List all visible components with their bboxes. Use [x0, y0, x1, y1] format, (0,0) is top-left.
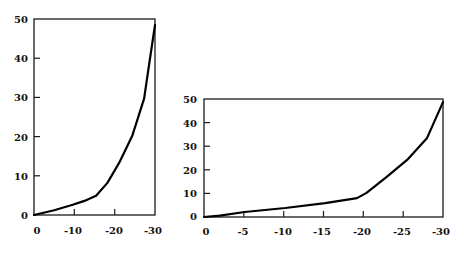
right-y-label: 40	[183, 118, 197, 129]
left-y-label: 40	[14, 53, 28, 64]
right-x-ticks	[244, 211, 403, 217]
right-y-label: 20	[183, 165, 197, 176]
left-y-tick-labels: 0 10 20 30 40 50	[14, 14, 28, 221]
left-y-label: 10	[14, 171, 28, 182]
right-y-ticks	[204, 123, 210, 194]
right-x-label: -5	[237, 226, 248, 237]
left-y-label: 0	[21, 210, 28, 221]
right-x-label: -30	[432, 226, 450, 237]
right-x-label: -20	[353, 226, 371, 237]
left-x-ticks	[74, 209, 114, 215]
right-x-label: -10	[274, 226, 292, 237]
left-y-ticks	[34, 58, 40, 176]
right-y-tick-labels: 0 10 20 30 40 50	[183, 94, 197, 222]
right-y-label: 30	[183, 141, 197, 152]
left-x-label: 0	[34, 225, 41, 236]
right-chart: 0 10 20 30 40 50 0 -5 -10 -15 -20 -25 -3…	[183, 94, 450, 237]
right-x-tick-labels: 0 -5 -10 -15 -20 -25 -30	[203, 226, 451, 237]
left-x-label: -20	[105, 225, 123, 236]
left-x-label: -30	[144, 225, 162, 236]
right-y-label: 50	[183, 94, 197, 105]
left-chart: 0 10 20 30 40 50 0 -10 -20 -30	[14, 14, 162, 236]
figure: 0 10 20 30 40 50 0 -10 -20 -30	[0, 0, 464, 253]
right-x-label: -15	[313, 226, 331, 237]
right-data-line	[204, 102, 443, 217]
left-x-label: -10	[64, 225, 82, 236]
left-y-label: 20	[14, 132, 28, 143]
left-plot-frame	[34, 19, 155, 215]
right-x-label: 0	[203, 226, 210, 237]
right-y-label: 10	[183, 188, 197, 199]
right-plot-frame	[204, 99, 443, 217]
left-data-line	[34, 25, 155, 215]
right-x-label: -25	[393, 226, 411, 237]
left-y-label: 50	[14, 14, 28, 25]
right-y-label: 0	[190, 211, 197, 222]
left-x-tick-labels: 0 -10 -20 -30	[34, 225, 163, 236]
left-y-label: 30	[14, 92, 28, 103]
